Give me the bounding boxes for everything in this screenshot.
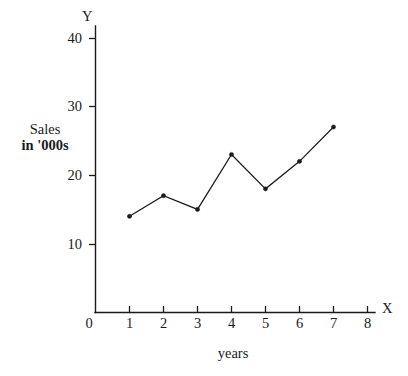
- data-point-7: [331, 125, 335, 129]
- x-tick-label-1: 1: [122, 315, 138, 331]
- x-tick-label-8: 8: [360, 315, 376, 331]
- x-tick-label-7: 7: [326, 315, 342, 331]
- y-tick-label-20: 20: [52, 167, 82, 183]
- line-chart: 40 30 20 10 0 1 2 3 4 5 6 7 8 Y X years …: [0, 0, 408, 376]
- y-axis-title: Sales in '000s: [8, 121, 82, 153]
- data-point-5: [263, 187, 267, 191]
- x-tick-label-5: 5: [258, 315, 274, 331]
- x-tick-label-2: 2: [156, 315, 172, 331]
- x-axis-name-label: X: [382, 300, 392, 316]
- data-series-line: [130, 127, 334, 216]
- x-tick-label-4: 4: [224, 315, 240, 331]
- y-tick-label-40: 40: [52, 30, 82, 46]
- x-tick-label-6: 6: [292, 315, 308, 331]
- data-point-3: [195, 207, 199, 211]
- x-tick-label-3: 3: [190, 315, 206, 331]
- data-point-6: [297, 159, 301, 163]
- data-point-4: [229, 152, 233, 156]
- y-axis-title-line2: in '000s: [8, 137, 82, 153]
- y-axis-title-line1: Sales: [8, 121, 82, 137]
- y-axis-name-label: Y: [82, 8, 92, 24]
- origin-label-0: 0: [81, 315, 97, 331]
- x-axis-title: years: [198, 345, 268, 361]
- data-point-markers: [127, 125, 335, 219]
- y-tick-label-30: 30: [52, 98, 82, 114]
- data-point-1: [127, 214, 131, 218]
- data-point-2: [161, 194, 165, 198]
- y-tick-label-10: 10: [52, 236, 82, 252]
